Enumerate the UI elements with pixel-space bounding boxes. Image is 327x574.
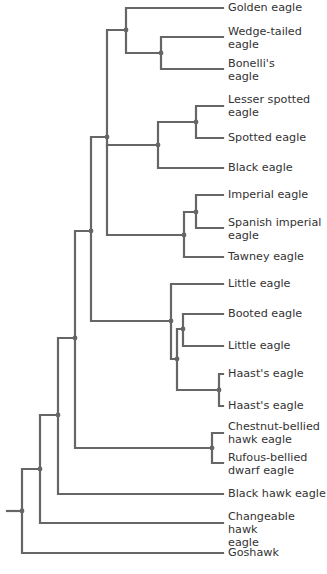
root-branch <box>22 469 223 553</box>
node-changeable <box>38 467 43 472</box>
branch-lesser-spotted <box>196 106 223 138</box>
leaf-label-goshawk: Goshawk <box>228 546 279 559</box>
leaf-label-spotted-eagle: Spotted eagle <box>228 131 306 144</box>
leaf-label-rufous-bellied-dwarf-eagle: Rufous-bellied dwarf eagle <box>228 451 307 477</box>
node-booted-little <box>181 327 186 332</box>
node-imperial-spanish <box>194 210 199 215</box>
leaf-label-tawney-eagle: Tawney eagle <box>228 250 304 263</box>
branch-hieraaetus <box>171 284 223 359</box>
leaf-label-black-eagle: Black eagle <box>228 161 293 174</box>
node-booted-haast <box>175 357 180 362</box>
branch-imperial-spanish <box>196 195 223 228</box>
leaf-label-little-eagle-1: Little eagle <box>228 277 291 290</box>
leaf-label-haasts-eagle-1: Haast's eagle <box>228 367 304 380</box>
leaf-label-little-eagle-2: Little eagle <box>228 339 291 352</box>
leaf-label-imperial-eagle: Imperial eagle <box>228 188 308 201</box>
node-aquila <box>105 135 110 140</box>
leaf-label-wedge-tailed-eagle: Wedge-tailed eagle <box>228 25 302 51</box>
leaf-label-changeable-hawk-eagle: Changeable hawk eagle <box>228 510 327 549</box>
node-blackhawk <box>56 413 61 418</box>
root-node <box>20 509 25 514</box>
node-chestnut-rufous <box>210 446 215 451</box>
node-lesser-spotted <box>194 120 199 125</box>
leaf-label-spanish-imperial-eagle: Spanish imperial eagle <box>228 216 321 242</box>
node-hieraaetus <box>169 319 174 324</box>
branch-blackhawk <box>58 338 223 494</box>
leaf-label-black-hawk-eagle: Black hawk eagle <box>228 487 326 500</box>
node-imperial-tawney <box>182 233 187 238</box>
branch-changeable <box>40 415 223 523</box>
branch-spotted-black <box>158 122 223 168</box>
leaf-label-haasts-eagle-2: Haast's eagle <box>228 399 304 412</box>
branch-imperial-tawney <box>184 212 223 257</box>
leaf-label-booted-eagle: Booted eagle <box>228 307 302 320</box>
node-chestnut-clade <box>73 336 78 341</box>
leaf-label-bonellis-eagle: Bonelli's eagle <box>228 57 275 83</box>
node-haast <box>217 388 222 393</box>
leaf-label-chestnut-bellied-hawk-eagle: Chestnut-bellied hawk eagle <box>228 420 320 446</box>
node-wedge-bonelli <box>159 51 164 56</box>
node-main-split <box>89 229 94 234</box>
node-golden <box>124 28 129 33</box>
branch-aquila <box>107 30 184 235</box>
branch-chestnut-clade <box>75 231 212 448</box>
branch-wedge-bonelli <box>161 37 223 69</box>
leaf-label-lesser-spotted-eagle: Lesser spotted eagle <box>228 93 310 119</box>
leaf-label-golden-eagle: Golden eagle <box>228 1 302 14</box>
branch-booted-little <box>183 314 223 346</box>
node-spotted-black <box>156 143 161 148</box>
branch-golden <box>126 8 223 53</box>
